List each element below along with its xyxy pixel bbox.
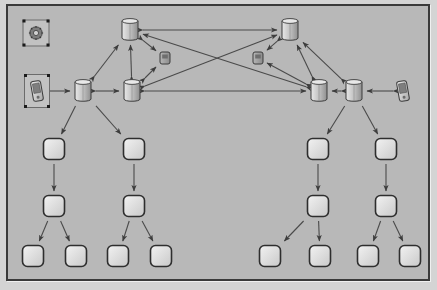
edge-pcscf1-to-gateapp_c1[interactable]: [96, 106, 121, 134]
server-icon: [72, 89, 94, 108]
node-switch_a2a[interactable]: [355, 243, 381, 269]
rounded-box-icon: [121, 147, 147, 166]
node-suafe1[interactable]: [158, 50, 172, 66]
node-ue1[interactable]: [29, 79, 45, 103]
node-pcscf1[interactable]: [72, 78, 94, 104]
server-icon: [279, 28, 301, 47]
rounded-box-icon: [373, 147, 399, 166]
node-controller_c2[interactable]: [305, 193, 331, 219]
gear-icon: [28, 27, 45, 46]
node-switch_c1b[interactable]: [148, 243, 174, 269]
server-icon: [119, 28, 141, 47]
edge-controller_a2-to-switch_a2b[interactable]: [393, 221, 403, 241]
server-icon: [343, 89, 365, 108]
edge-pcscf2-to-gateapp_c2[interactable]: [327, 106, 344, 134]
node-switch_c2b[interactable]: [307, 243, 333, 269]
rounded-box-icon: [148, 254, 174, 273]
node-global[interactable]: [28, 25, 45, 42]
node-switch_a1b[interactable]: [63, 243, 89, 269]
rounded-box-icon: [20, 254, 46, 273]
rounded-box-icon: [257, 254, 283, 273]
node-suafe2[interactable]: [251, 50, 265, 66]
edge-pcscf2-to-gateapp_a2[interactable]: [362, 106, 377, 134]
edge-controller_c2-to-switch_c2a[interactable]: [284, 221, 303, 241]
server-icon: [121, 89, 143, 108]
rounded-box-icon: [307, 254, 333, 273]
rounded-box-icon: [373, 204, 399, 223]
server-icon: [308, 89, 330, 108]
rounded-box-icon: [397, 254, 423, 273]
node-scscf2[interactable]: [308, 78, 330, 104]
rounded-box-icon: [41, 147, 67, 166]
node-controller_a2[interactable]: [373, 193, 399, 219]
rounded-box-icon: [63, 254, 89, 273]
edge-scscf1-to-icscf1[interactable]: [131, 45, 132, 76]
node-gateapp_c2[interactable]: [305, 136, 331, 162]
phone-icon: [29, 88, 45, 107]
rounded-box-icon: [305, 204, 331, 223]
edge-controller_a2-to-switch_a2a[interactable]: [373, 221, 380, 241]
node-pcscf2[interactable]: [343, 78, 365, 104]
rounded-box-icon: [105, 254, 131, 273]
node-gateapp_a1[interactable]: [41, 136, 67, 162]
resize-handle[interactable]: [24, 74, 27, 77]
rounded-box-icon: [121, 204, 147, 223]
node-switch_c1a[interactable]: [105, 243, 131, 269]
node-gateapp_c1[interactable]: [121, 136, 147, 162]
edge-layer: [8, 6, 432, 283]
topology-canvas[interactable]: [6, 4, 430, 281]
phone-icon: [395, 88, 411, 107]
small-box-icon: [251, 51, 265, 70]
edge-icscf2-to-suafe2[interactable]: [267, 41, 277, 50]
edge-scscf2-to-icscf2[interactable]: [297, 45, 312, 76]
resize-handle[interactable]: [24, 105, 27, 108]
edge-scscf1-to-suafe1[interactable]: [145, 67, 156, 78]
node-switch_a2b[interactable]: [397, 243, 423, 269]
node-scscf1[interactable]: [121, 78, 143, 104]
node-icscf2[interactable]: [279, 17, 301, 43]
edge-icscf1-to-suafe1[interactable]: [143, 40, 156, 50]
node-ue2[interactable]: [395, 79, 411, 103]
node-controller_c1[interactable]: [121, 193, 147, 219]
edge-controller_c1-to-switch_c1a[interactable]: [123, 221, 129, 241]
rounded-box-icon: [355, 254, 381, 273]
edge-pcscf1-to-gateapp_a1[interactable]: [62, 106, 76, 134]
resize-handle[interactable]: [47, 20, 50, 23]
node-gateapp_a2[interactable]: [373, 136, 399, 162]
edge-controller_a1-to-switch_a1b[interactable]: [61, 221, 70, 241]
rounded-box-icon: [305, 147, 331, 166]
resize-handle[interactable]: [23, 44, 26, 47]
edge-pcscf2-to-icscf2[interactable]: [303, 42, 341, 78]
edge-controller_c2-to-switch_c2b[interactable]: [319, 221, 320, 241]
edge-pcscf1-to-icscf1[interactable]: [95, 45, 119, 76]
node-switch_c2a[interactable]: [257, 243, 283, 269]
node-switch_a1a[interactable]: [20, 243, 46, 269]
small-box-icon: [158, 51, 172, 70]
node-icscf1[interactable]: [119, 17, 141, 43]
screenshot-root: [0, 0, 437, 290]
edge-controller_c1-to-switch_c1b[interactable]: [142, 221, 153, 241]
resize-handle[interactable]: [23, 20, 26, 23]
resize-handle[interactable]: [47, 44, 50, 47]
edge-controller_a1-to-switch_a1a[interactable]: [39, 221, 47, 241]
rounded-box-icon: [41, 204, 67, 223]
node-controller_a1[interactable]: [41, 193, 67, 219]
resize-handle[interactable]: [47, 74, 50, 77]
resize-handle[interactable]: [47, 105, 50, 108]
